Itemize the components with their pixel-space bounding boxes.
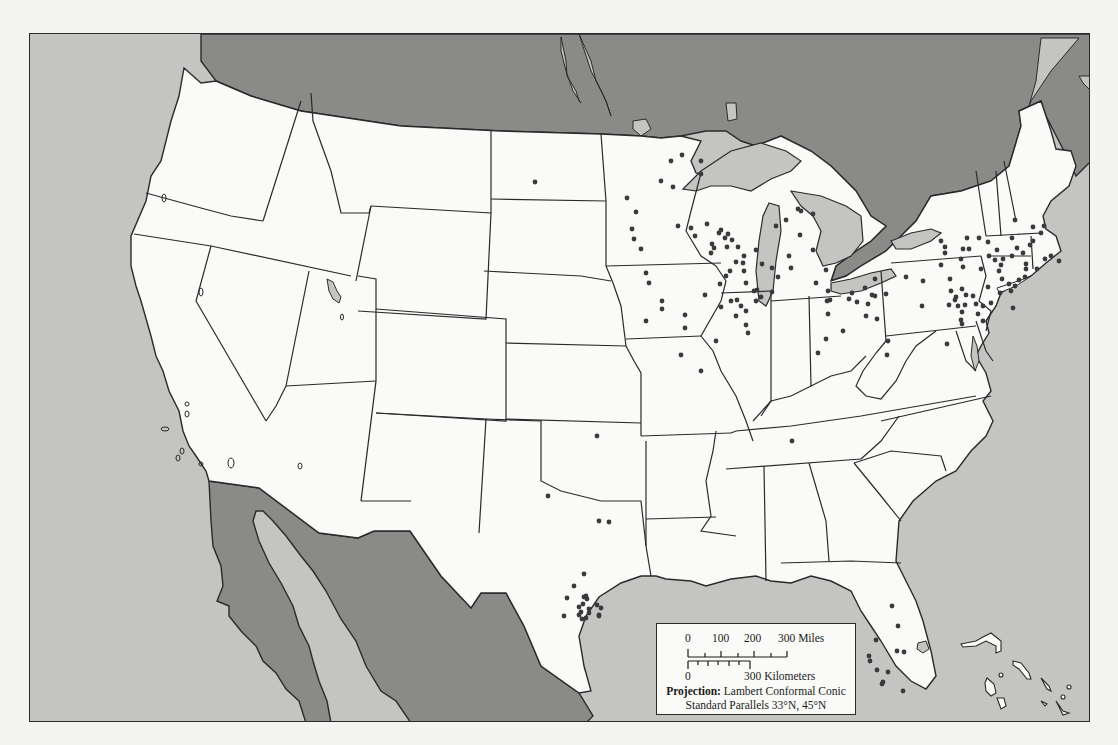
data-dot [726, 232, 731, 237]
data-dot [867, 654, 872, 659]
data-dot [824, 268, 829, 273]
scale-km-300: 300 Kilometers [744, 670, 815, 682]
data-dot [546, 494, 551, 499]
data-dot [855, 300, 860, 305]
scale-mile-300: 300 Miles [778, 632, 824, 644]
data-dot [949, 289, 954, 294]
standard-parallels: Standard Parallels 33°N, 45°N [657, 699, 855, 711]
data-dot [886, 339, 891, 344]
data-dot [709, 251, 714, 256]
data-dot [965, 236, 970, 241]
data-dot [902, 650, 907, 655]
data-dot [850, 291, 855, 296]
data-dot [943, 251, 948, 256]
data-dot [712, 246, 717, 251]
data-dot [977, 236, 982, 241]
data-dot [776, 275, 781, 280]
data-dot [989, 301, 994, 306]
data-dot [741, 261, 746, 266]
data-dot [679, 353, 684, 358]
data-dot [735, 298, 740, 303]
data-dot [864, 314, 869, 319]
data-dot [873, 277, 878, 282]
data-dot [1021, 251, 1026, 256]
data-dot [960, 287, 965, 292]
data-dot [811, 212, 816, 217]
data-dot [587, 611, 592, 616]
data-dot [676, 224, 681, 229]
data-dot [885, 353, 890, 358]
data-dot [1007, 282, 1012, 287]
data-dot [880, 682, 885, 687]
data-dot [742, 254, 747, 259]
data-dot [659, 179, 664, 184]
data-dot [1024, 267, 1029, 272]
data-dot [828, 298, 833, 303]
data-dot [597, 519, 602, 524]
projection-line: Projection: Lambert Conformal Conic [657, 685, 855, 697]
data-dot [943, 245, 948, 250]
data-dot [816, 351, 821, 356]
data-dot [723, 236, 728, 241]
data-dot [964, 293, 969, 298]
data-dot [742, 269, 747, 274]
data-dot [1011, 306, 1016, 311]
data-dot [644, 319, 649, 324]
data-dot [890, 604, 895, 609]
data-dot [607, 520, 612, 525]
data-dot [961, 265, 966, 270]
data-dot [956, 304, 961, 309]
data-dot [979, 267, 984, 272]
data-dot [725, 245, 730, 250]
data-dot [841, 329, 846, 334]
data-dot [719, 228, 724, 233]
data-dot [884, 292, 889, 297]
data-dot [577, 613, 582, 618]
lake-nipigon [726, 103, 737, 121]
data-dot [1031, 239, 1036, 244]
data-dot [625, 196, 630, 201]
data-dot [961, 247, 966, 252]
data-dot [1031, 225, 1036, 230]
data-dot [789, 266, 794, 271]
data-dot [814, 281, 819, 286]
data-dot [886, 670, 891, 675]
data-dot [562, 614, 567, 619]
data-dot [1013, 218, 1018, 223]
data-dot [699, 369, 704, 374]
data-dot [533, 180, 538, 185]
data-dot [826, 289, 831, 294]
data-dot [599, 606, 604, 611]
data-dot [754, 248, 759, 253]
data-dot [873, 294, 878, 299]
data-dot [582, 572, 587, 577]
data-dot [999, 263, 1004, 268]
data-dot [577, 605, 582, 610]
data-dot [660, 307, 665, 312]
projection-value: Lambert Conformal Conic [724, 685, 846, 697]
data-dot [1017, 278, 1022, 283]
data-dot [1049, 254, 1054, 259]
data-dot [939, 263, 944, 268]
scale-mile-200: 200 [744, 632, 761, 644]
data-dot [639, 247, 644, 252]
data-dot [699, 159, 704, 164]
data-dot [868, 659, 873, 664]
data-dot [580, 617, 585, 622]
data-dot [1035, 267, 1040, 272]
data-dot [787, 254, 792, 259]
data-dot [729, 299, 734, 304]
data-dot [718, 282, 723, 287]
data-dot [976, 312, 981, 317]
data-dot [671, 185, 676, 190]
data-dot [746, 331, 751, 336]
data-dot [953, 298, 958, 303]
data-dot [714, 339, 719, 344]
data-dot [683, 326, 688, 331]
data-dot [689, 226, 694, 231]
data-dot [680, 153, 685, 158]
data-dot [584, 616, 589, 621]
data-dot [874, 638, 879, 643]
data-dot [799, 209, 804, 214]
data-dot [896, 624, 901, 629]
